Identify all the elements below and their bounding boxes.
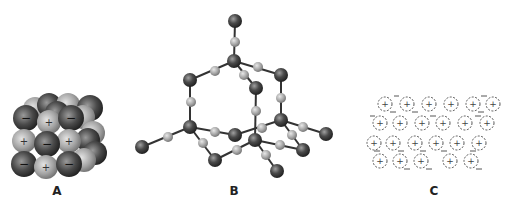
svg-text:+: + xyxy=(376,156,384,166)
ion-plus: + xyxy=(37,110,61,134)
svg-text:+: + xyxy=(389,138,397,148)
svg-text:+: + xyxy=(475,138,483,148)
svg-text:+: + xyxy=(469,99,477,109)
ion-minus: − xyxy=(13,105,39,131)
svg-text:−: − xyxy=(42,137,52,151)
ion-minus: − xyxy=(11,151,37,177)
electrons xyxy=(370,96,487,169)
svg-text:+: + xyxy=(446,156,454,166)
svg-text:+: + xyxy=(396,156,404,166)
svg-text:+: + xyxy=(447,99,455,109)
panel-c-label: C xyxy=(424,184,444,198)
svg-text:+: + xyxy=(453,138,461,148)
svg-text:+: + xyxy=(403,99,411,109)
panel-a-ionic-lattice: − + − + + − − + xyxy=(0,0,120,207)
ion-minus: − xyxy=(58,105,84,131)
svg-text:−: − xyxy=(19,157,29,171)
svg-text:−: − xyxy=(21,111,31,125)
svg-text:+: + xyxy=(489,99,497,109)
svg-text:−: − xyxy=(66,111,76,125)
bonds xyxy=(142,21,326,171)
ion-minus: − xyxy=(34,131,60,157)
svg-text:+: + xyxy=(461,118,469,128)
svg-text:+: + xyxy=(42,162,50,173)
svg-text:+: + xyxy=(411,138,419,148)
svg-text:+: + xyxy=(20,136,28,147)
ion-minus: − xyxy=(56,151,82,177)
svg-text:+: + xyxy=(370,138,378,148)
svg-text:+: + xyxy=(418,118,426,128)
panel-b-label: B xyxy=(224,184,244,198)
svg-text:+: + xyxy=(467,156,475,166)
ion-plus: + xyxy=(57,129,81,153)
positive-ions xyxy=(367,97,500,168)
svg-text:+: + xyxy=(45,117,53,128)
small-atoms xyxy=(163,37,308,160)
svg-text:+: + xyxy=(65,136,73,147)
ion-plus: + xyxy=(34,155,58,179)
panel-a-label: A xyxy=(47,184,67,198)
ion-plus: + xyxy=(12,129,36,153)
plus-signs: +++ +++ +++ +++ +++ +++ +++ ++ xyxy=(370,99,497,166)
svg-text:+: + xyxy=(439,118,447,128)
large-atoms xyxy=(135,14,333,178)
svg-text:+: + xyxy=(376,118,384,128)
svg-text:+: + xyxy=(432,138,440,148)
svg-text:+: + xyxy=(483,118,491,128)
ionic-lattice-figure: − + − + + − − + xyxy=(0,0,120,207)
svg-text:−: − xyxy=(64,157,74,171)
svg-text:+: + xyxy=(381,99,389,109)
svg-text:+: + xyxy=(417,156,425,166)
svg-text:+: + xyxy=(396,118,404,128)
svg-text:+: + xyxy=(425,99,433,109)
